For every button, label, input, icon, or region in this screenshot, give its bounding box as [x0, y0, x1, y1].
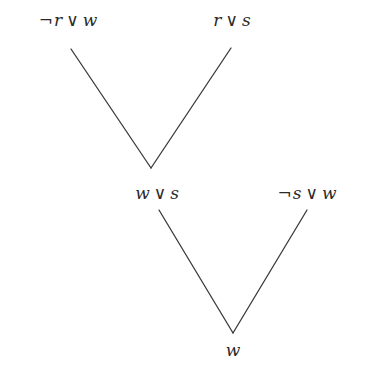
disjunction-symbol: ∨: [66, 10, 78, 30]
literal: w: [226, 340, 241, 360]
literal: r: [213, 10, 221, 30]
literal: s: [293, 183, 302, 203]
clause-not-r-or-w: ¬r∨w: [39, 12, 97, 29]
negation-symbol: ¬: [39, 10, 53, 30]
edge-r-or-s-to-w-or-s: [151, 48, 231, 168]
clause-w-or-s: w∨s: [135, 185, 179, 202]
disjunction-symbol: ∨: [305, 183, 317, 203]
resolution-diagram: ¬r∨w r∨s w∨s ¬s∨w w: [0, 0, 378, 370]
literal: s: [170, 183, 179, 203]
edge-w-or-s-to-w: [159, 210, 233, 333]
negation-symbol: ¬: [278, 183, 292, 203]
edge-not-r-or-w-to-w-or-s: [71, 49, 151, 168]
literal: w: [135, 183, 150, 203]
disjunction-symbol: ∨: [225, 10, 237, 30]
clause-w-resolvent: w: [226, 342, 241, 359]
clause-r-or-s: r∨s: [213, 12, 250, 29]
clause-not-s-or-w: ¬s∨w: [278, 185, 337, 202]
edge-not-s-or-w-to-w: [233, 210, 307, 333]
disjunction-symbol: ∨: [154, 183, 166, 203]
literal: r: [54, 10, 62, 30]
literal: s: [242, 10, 251, 30]
literal: w: [322, 183, 337, 203]
literal: w: [83, 10, 98, 30]
